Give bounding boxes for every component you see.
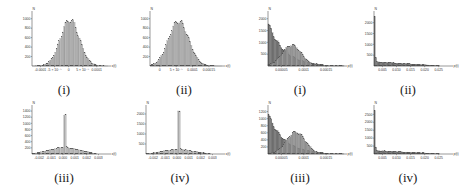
svg-text:0.015: 0.015 — [406, 156, 415, 160]
svg-text:600: 600 — [143, 36, 149, 40]
svg-text:1000: 1000 — [259, 41, 267, 45]
svg-text:N: N — [269, 101, 272, 105]
svg-text:1000: 1000 — [137, 132, 145, 136]
svg-text:200: 200 — [143, 55, 149, 59]
svg-text:0.002: 0.002 — [82, 156, 91, 160]
svg-text:0.025: 0.025 — [434, 68, 443, 72]
svg-text:400: 400 — [25, 140, 31, 144]
svg-text:0.025: 0.025 — [434, 156, 443, 160]
svg-text:0.00005: 0.00005 — [275, 68, 287, 72]
svg-text:0: 0 — [159, 68, 161, 72]
svg-text:N: N — [33, 7, 36, 11]
svg-text:-0.0001: -0.0001 — [35, 68, 47, 72]
svg-text:0.00015: 0.00015 — [320, 68, 332, 72]
svg-text:N: N — [375, 7, 378, 11]
chart-panel-right-iii: 200400600800100012000.000050.00010.00015… — [258, 102, 350, 166]
svg-text:2000: 2000 — [259, 17, 267, 21]
svg-text:0.010: 0.010 — [392, 68, 401, 72]
chart-panel-left-iii: 200400600800100012001400-0.002-0.0010.00… — [22, 102, 114, 166]
svg-text:500: 500 — [367, 53, 373, 57]
svg-text:1400: 1400 — [23, 109, 31, 113]
svg-text:0.003: 0.003 — [94, 156, 103, 160]
svg-text:1000: 1000 — [365, 136, 373, 140]
svg-text:-0.001: -0.001 — [160, 156, 170, 160]
svg-text:0.00015: 0.00015 — [320, 156, 332, 160]
svg-text:1500: 1500 — [137, 122, 145, 126]
svg-text:0.0001: 0.0001 — [299, 68, 309, 72]
svg-text:800: 800 — [143, 26, 149, 30]
svg-text:800: 800 — [261, 124, 267, 128]
chart-panel-left-iv: 500100015002000-0.002-0.0010.0000.0010.0… — [136, 102, 228, 166]
svg-text:800: 800 — [25, 26, 31, 30]
svg-text:1500: 1500 — [365, 32, 373, 36]
svg-text:0.003: 0.003 — [208, 156, 217, 160]
svg-text:0.020: 0.020 — [420, 156, 429, 160]
svg-text:0.010: 0.010 — [392, 156, 401, 160]
svg-text:0.0001: 0.0001 — [92, 68, 102, 72]
svg-text:200: 200 — [261, 145, 267, 149]
panel-caption: (ii) — [378, 82, 438, 98]
panel-caption: (i) — [270, 82, 330, 98]
svg-text:0.001: 0.001 — [71, 156, 80, 160]
svg-text:1200: 1200 — [259, 110, 267, 114]
svg-text:500: 500 — [139, 142, 145, 146]
svg-text:600: 600 — [25, 134, 31, 138]
svg-text:N: N — [33, 101, 36, 105]
chart-panel-right-i: 5001000150020000.000050.00010.00015Np(t) — [258, 8, 350, 78]
svg-text:0.00015: 0.00015 — [203, 68, 215, 72]
svg-text:1000: 1000 — [23, 17, 31, 21]
svg-text:p(t): p(t) — [454, 64, 459, 68]
svg-text:0.000: 0.000 — [59, 156, 68, 160]
svg-text:0.015: 0.015 — [406, 68, 415, 72]
svg-text:N: N — [269, 7, 272, 11]
svg-text:p(t): p(t) — [348, 64, 353, 68]
svg-text:x(t): x(t) — [226, 152, 231, 156]
svg-text:200: 200 — [25, 55, 31, 59]
svg-text:x(t): x(t) — [112, 64, 117, 68]
svg-text:800: 800 — [25, 128, 31, 132]
svg-text:N: N — [375, 101, 378, 105]
svg-text:1500: 1500 — [259, 29, 267, 33]
svg-text:-0.002: -0.002 — [148, 156, 158, 160]
svg-text:x(t): x(t) — [226, 64, 231, 68]
panel-caption: (iii) — [270, 170, 330, 186]
chart-panel-right-ii: 5001000150020000.0050.0100.0150.0200.025… — [364, 8, 456, 78]
svg-text:0.001: 0.001 — [185, 156, 194, 160]
panel-caption: (iv) — [378, 170, 438, 186]
svg-text:0.005: 0.005 — [378, 68, 387, 72]
panel-caption: (iii) — [34, 170, 94, 186]
svg-text:2500: 2500 — [365, 113, 373, 117]
chart-panel-left-i: 2004006008001000-0.0001-5 × 10⁻⁵05 × 10⁻… — [22, 8, 114, 78]
svg-text:1000: 1000 — [259, 117, 267, 121]
svg-text:600: 600 — [25, 36, 31, 40]
svg-text:0: 0 — [68, 68, 70, 72]
svg-text:2000: 2000 — [365, 21, 373, 25]
svg-text:1000: 1000 — [23, 122, 31, 126]
svg-text:500: 500 — [261, 52, 267, 56]
svg-text:2000: 2000 — [365, 120, 373, 124]
svg-text:N: N — [151, 7, 154, 11]
svg-text:0.0001: 0.0001 — [299, 156, 309, 160]
svg-text:400: 400 — [261, 138, 267, 142]
panel-caption: (iv) — [150, 170, 210, 186]
svg-text:0.002: 0.002 — [196, 156, 205, 160]
svg-text:N: N — [147, 101, 150, 105]
svg-text:0.0001: 0.0001 — [187, 68, 197, 72]
svg-text:0.005: 0.005 — [378, 156, 387, 160]
svg-text:5 × 10⁻⁵: 5 × 10⁻⁵ — [76, 68, 90, 72]
svg-text:-0.002: -0.002 — [34, 156, 44, 160]
chart-panel-left-ii: 200400600800100005 × 10⁻⁵0.00010.00015Nx… — [140, 8, 228, 78]
svg-text:0.000: 0.000 — [173, 156, 182, 160]
svg-text:x(t): x(t) — [112, 152, 117, 156]
svg-text:400: 400 — [143, 45, 149, 49]
svg-text:p(t): p(t) — [454, 152, 459, 156]
panel-caption: (i) — [34, 82, 94, 98]
svg-text:200: 200 — [25, 146, 31, 150]
svg-text:5 × 10⁻⁵: 5 × 10⁻⁵ — [170, 68, 184, 72]
svg-text:500: 500 — [367, 144, 373, 148]
svg-text:400: 400 — [25, 45, 31, 49]
svg-text:1000: 1000 — [141, 17, 149, 21]
svg-text:-0.001: -0.001 — [46, 156, 56, 160]
svg-text:0.020: 0.020 — [420, 68, 429, 72]
svg-text:0.00005: 0.00005 — [275, 156, 287, 160]
